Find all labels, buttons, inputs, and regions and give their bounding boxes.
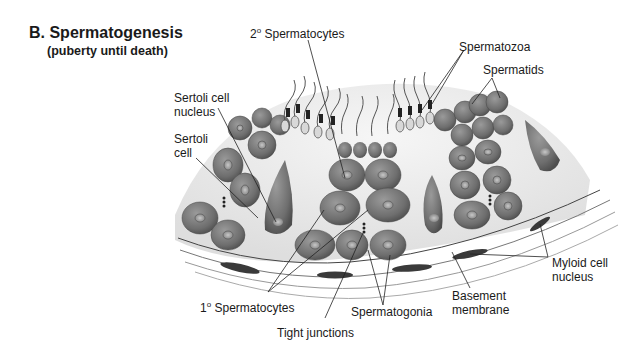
label-spermatozoa: Spermatozoa: [459, 40, 530, 54]
label-tight-junctions: Tight junctions: [277, 326, 354, 340]
seminiferous-tubule-diagram: [0, 0, 634, 342]
label-myloid-cell-nucleus: Myloid cell nucleus: [552, 256, 608, 284]
label-sertoli-cell: Sertoli cell: [174, 132, 208, 160]
label-primary-spermatocytes: 1o Spermatocytes: [200, 298, 295, 315]
label-spermatids: Spermatids: [483, 63, 544, 77]
label-basement-membrane: Basement membrane: [452, 289, 509, 317]
label-secondary-spermatocytes: 2o Spermatocytes: [250, 24, 345, 41]
label-sertoli-cell-nucleus: Sertoli cell nucleus: [174, 91, 229, 119]
label-spermatogonia: Spermatogonia: [351, 305, 432, 319]
